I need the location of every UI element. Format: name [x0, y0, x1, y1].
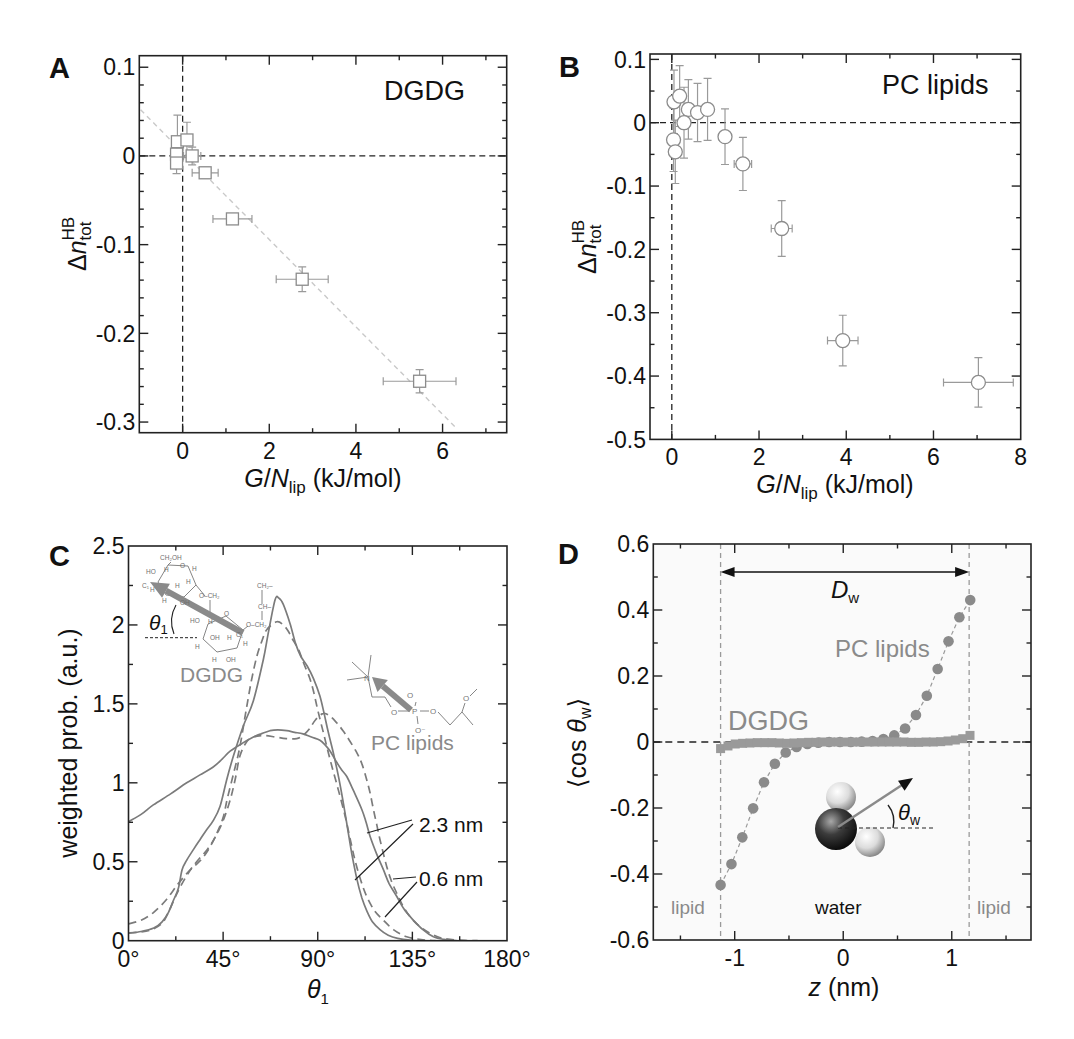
atom-label: H [227, 634, 232, 641]
atom-label: O–CH₂ [246, 621, 267, 628]
x-tick-label: 6 [927, 444, 940, 470]
atom-label: H [195, 643, 200, 650]
y-tick-label: 0.1 [103, 54, 135, 80]
x-title-slash: / [264, 464, 271, 492]
y-title-subscript: tot [76, 221, 95, 240]
inset-label-dgdg: DGDG [384, 76, 465, 106]
figure-canvas: 02460.10-0.1-0.2-0.3024680.10-0.1-0.2-0.… [0, 0, 1074, 1039]
x-title-z: z [808, 973, 822, 1001]
atom-label-c1: C₁ [236, 631, 244, 638]
data-point-circle [701, 102, 715, 116]
x-title-var-n: N [783, 470, 802, 498]
atom-label: OH [226, 656, 236, 663]
atom-label: H [162, 597, 167, 604]
y-tick-label: 0.2 [617, 663, 649, 689]
data-point-square [296, 273, 308, 285]
atom-label: OH [210, 634, 220, 641]
x-tick-label: 90° [300, 946, 335, 972]
y-title-close: ⟩ [563, 698, 591, 708]
y-title-open: ⟨cos [563, 733, 591, 789]
x-axis-title-d: z (nm) [808, 973, 880, 1001]
series-pc-lipids-2-3-nm [129, 730, 457, 941]
data-point-circle [770, 758, 781, 769]
plot-c: 0°45°90°135°180°00.511.522.5 [93, 533, 531, 972]
y-tick-label: 2 [112, 612, 125, 638]
data-point-circle [943, 636, 954, 647]
atom-label: H [208, 618, 213, 625]
y-tick-label: -0.4 [606, 363, 646, 389]
theta-subscript: 1 [160, 622, 167, 637]
dgdg-label: DGDG [728, 706, 809, 736]
region-label-lipid-right: lipid [977, 897, 1011, 918]
x-tick-label: 0 [665, 444, 678, 470]
atom-label: P [412, 707, 417, 716]
data-point-circle [677, 116, 691, 130]
x-tick-label: 135° [389, 946, 437, 972]
atom-label: O [463, 694, 469, 703]
data-point-circle [718, 130, 732, 144]
atom-label: O [391, 708, 397, 717]
y-title-var: n [573, 243, 601, 257]
atom-label: H [212, 656, 217, 663]
y-tick-label: -0.6 [610, 927, 650, 953]
y-tick-label: 1 [112, 770, 125, 796]
y-tick-label: 0.1 [614, 47, 646, 73]
y-tick-label: 1.5 [93, 691, 125, 717]
x-title-unit: (kJ/mol) [306, 464, 402, 492]
atom-label: H [164, 566, 169, 573]
oxygen-atom-icon [815, 808, 857, 850]
y-tick-label: -0.4 [610, 861, 650, 887]
atom-label: N [364, 674, 370, 683]
atom-label: O [180, 562, 185, 569]
y-tick-label: -0.2 [96, 321, 136, 347]
theta-symbol: θ [898, 800, 910, 825]
y-tick-label: 0 [112, 928, 125, 954]
x-tick-label: 4 [840, 444, 853, 470]
data-point-circle [932, 664, 943, 675]
x-title-unit: (kJ/mol) [818, 470, 914, 498]
x-tick-label: 180° [483, 946, 531, 972]
plot-a: 02460.10-0.1-0.2-0.3 [96, 54, 507, 463]
x-tick-label: 45° [206, 946, 241, 972]
x-title-slash: / [776, 470, 783, 498]
data-point-circle [954, 612, 965, 623]
series-line [129, 730, 457, 941]
y-axis-title-d: ⟨cos θw⟩ [563, 698, 594, 789]
legend-label-0-6-nm: 0.6 nm [419, 867, 483, 890]
region-label-lipid-left: lipid [671, 897, 705, 918]
data-point-circle [737, 832, 748, 843]
data-point-circle [780, 747, 791, 758]
figure-svg: 02460.10-0.1-0.2-0.3024680.10-0.1-0.2-0.… [0, 0, 1074, 1039]
x-axis-title-b: G/Nlip (kJ/mol) [756, 470, 913, 503]
theta-symbol: θ [149, 611, 161, 634]
x-tick-label: 6 [436, 438, 449, 464]
y-title-subscript: w [577, 707, 594, 720]
series-line [129, 622, 436, 941]
plot-content [139, 56, 506, 433]
atom-label: H [192, 565, 197, 572]
atom-label: H [243, 640, 248, 647]
x-tick-label: -1 [724, 945, 744, 971]
y-tick-label: 0 [633, 110, 646, 136]
data-point-circle [922, 691, 933, 702]
atom-label: H [186, 578, 191, 585]
theta-subscript: w [909, 812, 921, 828]
plot-content [650, 54, 1021, 439]
data-point-circle [736, 157, 750, 171]
data-point-square [199, 167, 211, 179]
data-point-circle [775, 221, 789, 235]
data-point-circle [836, 334, 850, 348]
x-tick-label: 0 [837, 945, 850, 971]
plot-b: 024680.10-0.1-0.2-0.3-0.4-0.5 [606, 47, 1027, 471]
atom-label: CH₂– [257, 582, 273, 589]
dw-symbol: D [831, 576, 848, 603]
x-title-subscript: lip [289, 478, 306, 497]
data-point-circle [971, 375, 985, 389]
y-tick-label: -0.1 [606, 173, 646, 199]
x-tick-label: 0 [176, 438, 189, 464]
panel-letter-d: D [558, 538, 579, 570]
x-axis-title-a: G/Nlip (kJ/mol) [244, 464, 401, 497]
series-dgdg [171, 115, 456, 393]
y-tick-label: -0.2 [606, 237, 646, 263]
dgdg-structure-diagram: CH₂OH HO H O H H H H O–CH₂ OH H HO H O O… [142, 554, 273, 663]
